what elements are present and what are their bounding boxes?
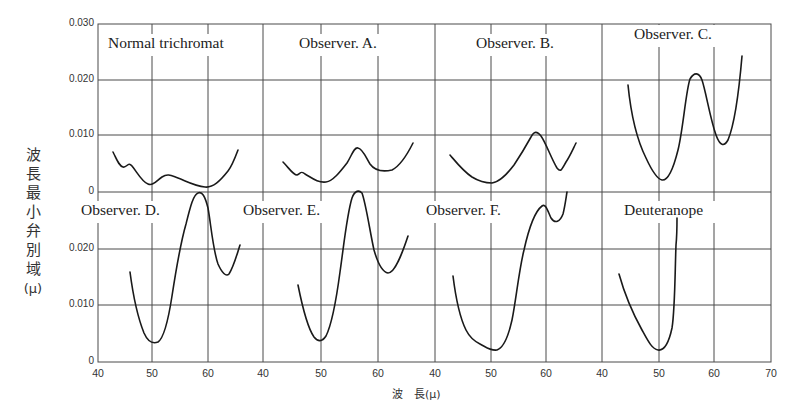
y-tick-bottom-0: 0 xyxy=(54,355,94,366)
x-tick: 50 xyxy=(644,367,674,379)
x-tick: 50 xyxy=(306,367,336,379)
y-tick-top-0: 0 xyxy=(54,185,94,196)
panel-label-observer-f: Observer. F. xyxy=(426,201,501,219)
panel-label-observer-c: Observer. C. xyxy=(634,25,712,43)
x-tick: 60 xyxy=(193,367,223,379)
x-tick: 40 xyxy=(420,367,450,379)
y-axis-label-char: 長 xyxy=(22,165,44,184)
y-tick-bottom-0020: 0.020 xyxy=(54,242,94,253)
curve-observer-a xyxy=(283,143,413,182)
x-tick: 50 xyxy=(137,367,167,379)
curve-observer-b xyxy=(450,132,576,183)
x-tick: 60 xyxy=(699,367,729,379)
x-tick: 50 xyxy=(476,367,506,379)
y-axis-label-char: 弁 xyxy=(22,222,44,241)
panel-label-deuteranope: Deuteranope xyxy=(624,201,703,219)
x-tick: 40 xyxy=(83,367,113,379)
panel-label-observer-d: Observer. D. xyxy=(81,201,160,219)
label-masks xyxy=(79,25,725,223)
y-tick-top-0010: 0.010 xyxy=(54,128,94,139)
curve-normal-trichromat xyxy=(113,150,238,187)
y-axis-label-char: 別 xyxy=(22,241,44,260)
y-tick-top-0020: 0.020 xyxy=(54,73,94,84)
panel-label-observer-a: Observer. A. xyxy=(299,34,377,52)
y-tick-top-0030: 0.030 xyxy=(54,17,94,28)
x-tick: 70 xyxy=(756,367,786,379)
x-tick: 40 xyxy=(587,367,617,379)
x-tick: 40 xyxy=(248,367,278,379)
x-tick: 60 xyxy=(531,367,561,379)
y-axis-label-char: 最 xyxy=(22,184,44,203)
panel-label-observer-b: Observer. B. xyxy=(476,34,554,52)
panel-label-normal-trichromat: Normal trichromat xyxy=(108,34,224,52)
curve-observer-c xyxy=(628,56,742,180)
y-axis-label-char: (μ) xyxy=(22,279,44,298)
y-axis-label-char: 小 xyxy=(22,203,44,222)
y-axis-label-char: 波 xyxy=(22,146,44,165)
x-axis-label: 波 長(μ) xyxy=(392,385,441,401)
y-axis-label-char: 域 xyxy=(22,260,44,279)
y-tick-bottom-0010: 0.010 xyxy=(54,298,94,309)
curve-deuteranope xyxy=(619,218,677,350)
x-tick: 60 xyxy=(363,367,393,379)
y-axis-label: 波 長 最 小 弁 別 域 (μ) xyxy=(22,146,44,298)
panel-label-observer-e: Observer. E. xyxy=(243,201,320,219)
